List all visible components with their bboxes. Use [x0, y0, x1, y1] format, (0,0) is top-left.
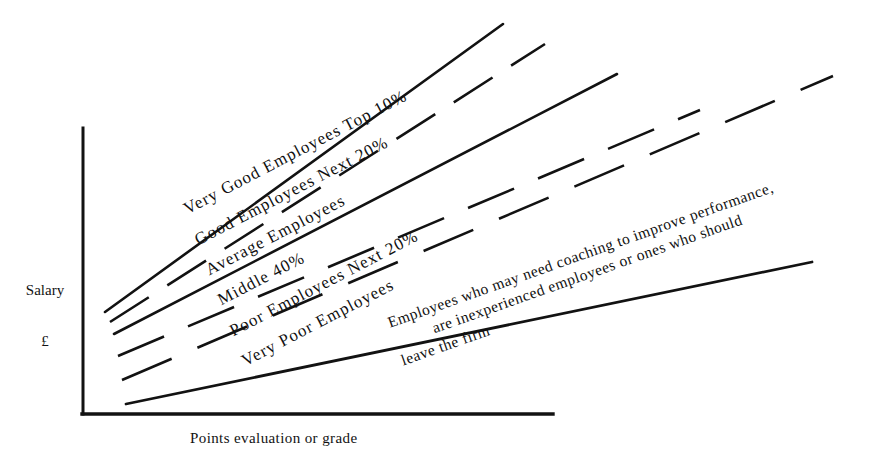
y-axis-label-line1: Salary: [12, 282, 78, 299]
x-axis-label: Points evaluation or grade: [190, 430, 357, 447]
y-axis-label-line2: £: [12, 333, 78, 350]
chart-figure: Salary £ Points evaluation or grade Very…: [0, 0, 873, 465]
y-axis-label: Salary £: [12, 248, 78, 384]
series-line-very-good: [105, 24, 503, 312]
